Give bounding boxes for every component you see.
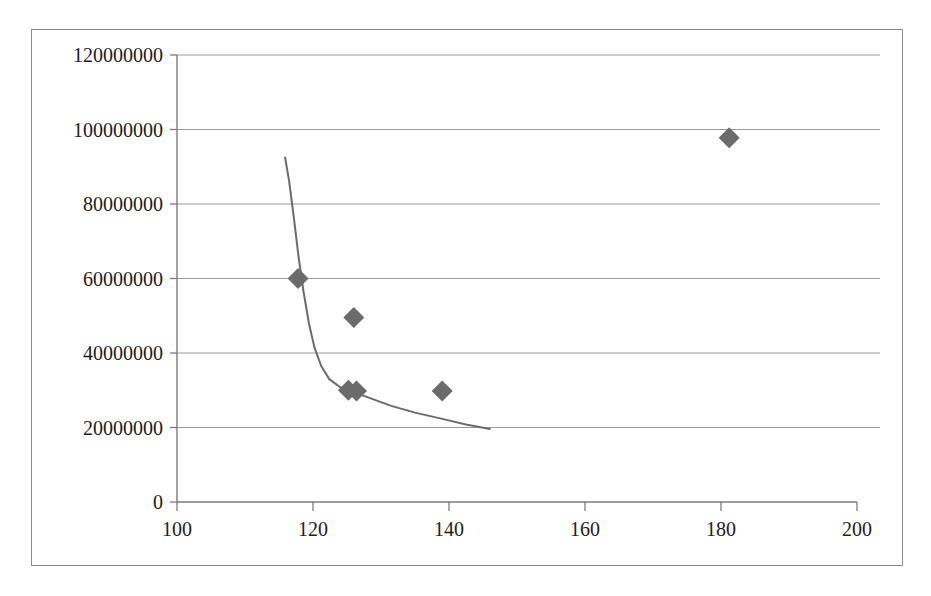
x-tick-label: 100 bbox=[162, 518, 192, 541]
y-tick-label: 120000000 bbox=[73, 44, 163, 67]
x-tick-label: 200 bbox=[842, 518, 872, 541]
curve-path bbox=[285, 157, 490, 429]
chart-container: 0200000004000000060000000800000001000000… bbox=[0, 0, 931, 596]
chart-plot-area bbox=[0, 0, 931, 596]
data-point-marker bbox=[719, 127, 740, 148]
y-tick-label: 40000000 bbox=[83, 342, 163, 365]
data-point-marker bbox=[432, 380, 453, 401]
tickmarks-group bbox=[170, 55, 857, 511]
fitted-curve bbox=[285, 157, 490, 429]
x-tick-label: 120 bbox=[298, 518, 328, 541]
x-tick-label: 180 bbox=[706, 518, 736, 541]
x-tick-label: 140 bbox=[434, 518, 464, 541]
x-tick-label: 160 bbox=[570, 518, 600, 541]
y-tick-label: 80000000 bbox=[83, 193, 163, 216]
data-points-group bbox=[288, 127, 740, 401]
data-point-marker bbox=[288, 268, 309, 289]
y-tick-label: 0 bbox=[153, 491, 163, 514]
y-tick-label: 60000000 bbox=[83, 267, 163, 290]
gridlines-group bbox=[177, 55, 880, 428]
y-tick-label: 100000000 bbox=[73, 118, 163, 141]
y-tick-label: 20000000 bbox=[83, 416, 163, 439]
data-point-marker bbox=[343, 307, 364, 328]
